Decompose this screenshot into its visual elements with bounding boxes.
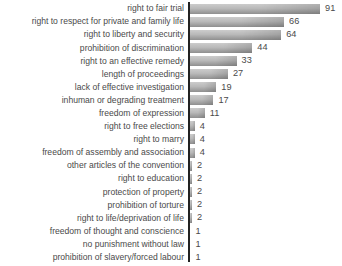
bar (189, 121, 195, 131)
value-label: 1 (195, 240, 200, 249)
bar (189, 43, 252, 53)
bar-chart: right to fair trial 91 right to respect … (0, 0, 342, 266)
bar (189, 17, 284, 27)
category-label: prohibition of slavery/forced labour (0, 253, 189, 262)
bar-row: freedom of assembly and association 4 (0, 146, 335, 159)
category-label: right to liberty and security (0, 30, 189, 39)
bar-row: prohibition of slavery/forced labour 1 (0, 251, 335, 264)
bar-row: right to fair trial 91 (0, 2, 335, 15)
bar-row: other articles of the convention 2 (0, 159, 335, 172)
category-label: freedom of assembly and association (0, 148, 189, 157)
bar (189, 134, 195, 144)
bar-row: length of proceedings 27 (0, 67, 335, 80)
value-label: 4 (200, 122, 205, 131)
value-label: 2 (197, 161, 202, 170)
bar (189, 82, 216, 92)
bar-row: freedom of thought and conscience 1 (0, 225, 335, 238)
bar (189, 95, 213, 105)
category-label: inhuman or degrading treatment (0, 96, 189, 105)
category-label: right to fair trial (0, 4, 189, 13)
value-label: 64 (286, 30, 296, 39)
value-label: 1 (195, 253, 200, 262)
category-label: prohibition of torture (0, 201, 189, 210)
bar-row: right to respect for private and family … (0, 15, 335, 28)
category-label: lack of effective investigation (0, 83, 189, 92)
value-label: 2 (197, 187, 202, 196)
value-label: 2 (197, 213, 202, 222)
category-label: right to respect for private and family … (0, 17, 189, 26)
bar-row: prohibition of torture 2 (0, 198, 335, 211)
category-label: other articles of the convention (0, 161, 189, 170)
bar-row: prohibition of discrimination 44 (0, 41, 335, 54)
category-label: right to life/deprivation of life (0, 214, 189, 223)
bar-row: right to an effective remedy 33 (0, 54, 335, 67)
bar (189, 56, 237, 66)
value-label: 2 (197, 174, 202, 183)
value-label: 4 (200, 148, 205, 157)
bar (189, 69, 228, 79)
bar-row: protection of property 2 (0, 185, 335, 198)
value-label: 19 (221, 83, 231, 92)
bar (189, 108, 205, 118)
category-label: no punishment without law (0, 240, 189, 249)
value-label: 4 (200, 135, 205, 144)
category-label: right to an effective remedy (0, 57, 189, 66)
bar-row: inhuman or degrading treatment 17 (0, 94, 335, 107)
category-label: right to free elections (0, 122, 189, 131)
bar-row: no punishment without law 1 (0, 238, 335, 251)
category-label: freedom of expression (0, 109, 189, 118)
y-axis-line (188, 2, 190, 262)
bar-row: freedom of expression 11 (0, 107, 335, 120)
category-label: protection of property (0, 188, 189, 197)
value-label: 17 (218, 96, 228, 105)
bar-row: right to education 2 (0, 172, 335, 185)
value-label: 27 (233, 69, 243, 78)
bar-row: right to liberty and security 64 (0, 28, 335, 41)
value-label: 66 (289, 17, 299, 26)
value-label: 1 (195, 227, 200, 236)
bar (189, 4, 320, 14)
bar-row: right to free elections 4 (0, 120, 335, 133)
bar-rows: right to fair trial 91 right to respect … (0, 2, 335, 264)
bar-row: right to marry 4 (0, 133, 335, 146)
category-label: freedom of thought and conscience (0, 227, 189, 236)
value-label: 2 (197, 200, 202, 209)
category-label: length of proceedings (0, 70, 189, 79)
bar (189, 30, 281, 40)
value-label: 11 (210, 109, 220, 118)
bar (189, 148, 195, 158)
bar-row: right to life/deprivation of life 2 (0, 212, 335, 225)
bar-row: lack of effective investigation 19 (0, 81, 335, 94)
category-label: right to education (0, 174, 189, 183)
value-label: 44 (257, 43, 267, 52)
category-label: prohibition of discrimination (0, 44, 189, 53)
value-label: 33 (242, 56, 252, 65)
value-label: 91 (325, 4, 335, 13)
category-label: right to marry (0, 135, 189, 144)
